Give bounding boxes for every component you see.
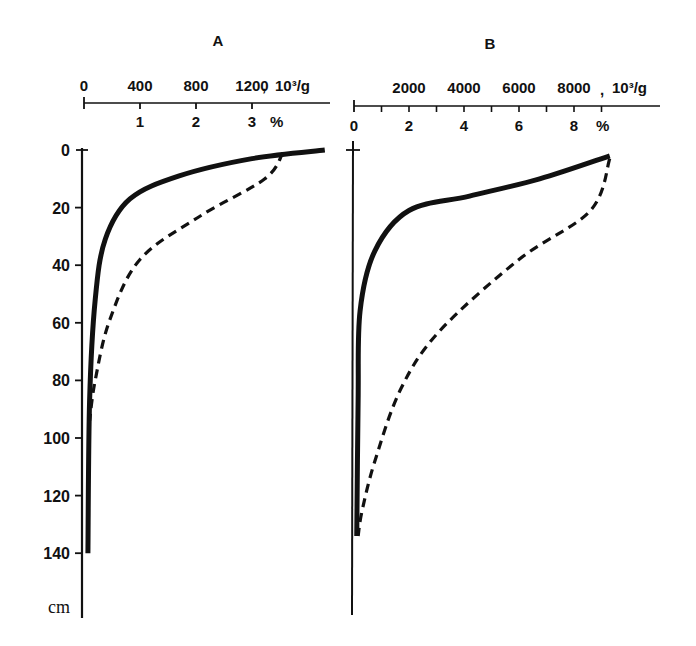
depth-unit-label: cm [48, 597, 70, 617]
svg-text:,: , [262, 77, 266, 94]
top-axis-tick-label: 8000 [557, 79, 590, 96]
bottom-axis-tick-label: 2 [405, 117, 413, 134]
bottom-axis-tick-label: 8 [570, 117, 578, 134]
panel-b: B2000400060008000,10³/g02468% [346, 35, 660, 615]
panel-b-title: B [485, 35, 496, 52]
depth-tick-label: 120 [43, 488, 70, 505]
series-dashed-line [358, 159, 610, 536]
svg-text:10³/g: 10³/g [275, 77, 310, 94]
bottom-axis-tick-label: 3 [248, 113, 256, 130]
top-axis-tick-label: 2000 [392, 79, 425, 96]
svg-text:,: , [600, 81, 604, 98]
bottom-axis-tick-label: 6 [515, 117, 523, 134]
chart-canvas: A04008001200,10³/g123%020406080100120140… [0, 0, 696, 646]
panel-a: A04008001200,10³/g123%020406080100120140… [43, 32, 330, 618]
depth-tick-label: 40 [52, 257, 70, 274]
depth-tick-label: 20 [52, 200, 70, 217]
depth-tick-label: 0 [61, 142, 70, 159]
top-axis-tick-label: 800 [183, 77, 208, 94]
top-axis-tick-label: 0 [80, 77, 88, 94]
svg-text:%: % [270, 113, 283, 130]
top-axis-tick-label: 400 [127, 77, 152, 94]
series-solid-line [357, 156, 610, 536]
bottom-axis-tick-label: 2 [192, 113, 200, 130]
svg-text:10³/g: 10³/g [612, 79, 647, 96]
depth-tick-label: 60 [52, 315, 70, 332]
svg-text:%: % [596, 117, 609, 134]
depth-tick-label: 100 [43, 430, 70, 447]
top-axis-tick-label: 6000 [502, 79, 535, 96]
series-dashed-line [90, 153, 283, 421]
depth-tick-label: 140 [43, 545, 70, 562]
bottom-axis-tick-label: 1 [136, 113, 144, 130]
depth-tick-label: 80 [52, 372, 70, 389]
bottom-axis-tick-label: 4 [460, 117, 469, 134]
bottom-axis-tick-label: 0 [350, 117, 358, 134]
panel-a-title: A [213, 32, 224, 49]
top-axis-tick-label: 4000 [447, 79, 480, 96]
